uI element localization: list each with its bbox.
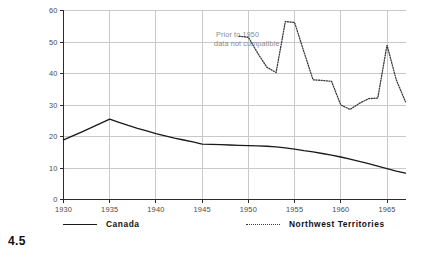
figure-4-5: Average Value per Ton of Ore Mined (in 1… [0,0,421,257]
svg-text:1940: 1940 [147,205,164,214]
annotation-line-2: data not cumpatible [214,39,280,48]
legend-entry-northwest-territories: Northwest Territories [246,219,385,229]
svg-text:1965: 1965 [378,205,395,214]
series-line-northwest-territories [239,22,405,110]
figure-number: 4.5 [8,234,26,248]
svg-text:10: 10 [49,164,58,173]
svg-text:1935: 1935 [101,205,118,214]
svg-text:0: 0 [53,195,57,204]
legend-solid-line-icon [63,224,97,225]
series-line-canada [64,119,406,173]
legend-label-canada: Canada [106,219,140,229]
legend-dotted-line-icon [246,224,280,225]
x-axis-tick-labels: 19301935194019451950195519601965 [55,205,396,214]
legend-label-northwest-territories: Northwest Territories [289,219,385,229]
svg-text:30: 30 [49,101,58,110]
chart-legend: Canada Northwest Territories [0,219,421,235]
svg-text:1960: 1960 [332,205,349,214]
y-axis-ticks [60,11,64,200]
svg-text:20: 20 [49,132,58,141]
y-axis-tick-labels: 0102030405060 [49,6,58,204]
svg-text:40: 40 [49,69,58,78]
svg-text:1930: 1930 [55,205,72,214]
svg-text:60: 60 [49,6,58,15]
annotation-line-1: Prior to 1950 [216,30,259,39]
x-axis-ticks [64,200,388,204]
svg-text:1955: 1955 [286,205,303,214]
annotation-prior-to-1950: Prior to 1950 data not cumpatible [214,30,280,48]
svg-text:1945: 1945 [194,205,211,214]
svg-text:1950: 1950 [240,205,257,214]
legend-entry-canada: Canada [63,219,140,229]
svg-text:50: 50 [49,38,58,47]
